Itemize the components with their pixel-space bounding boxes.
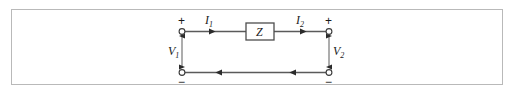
current-label-i1: I1	[205, 14, 213, 26]
voltage-label-v1-subscript: 1	[175, 51, 179, 60]
current-label-i2: I2	[296, 14, 304, 26]
current-label-i2-subscript: 2	[300, 20, 304, 29]
wire-top-left	[185, 28, 246, 34]
polarity-minus-right: −	[325, 76, 332, 88]
terminal-top-right	[326, 29, 332, 35]
polarity-minus-left: −	[178, 76, 185, 88]
return-arrow-left	[215, 69, 222, 75]
figure-root: Z I1 I2 V1 V2 + − + −	[0, 0, 513, 97]
polarity-plus-left: +	[178, 15, 185, 27]
voltage-label-v1: V1	[168, 45, 179, 57]
voltage-label-v2: V2	[333, 45, 344, 57]
current-arrow-i1	[209, 28, 216, 34]
return-arrow-right	[289, 69, 296, 75]
current-label-i1-subscript: 1	[209, 20, 213, 29]
wire-top-right	[274, 28, 329, 34]
wire-bottom	[182, 69, 329, 75]
terminal-top-left	[179, 29, 185, 35]
current-arrow-i2	[300, 28, 307, 34]
voltage-label-v2-subscript: 2	[340, 51, 344, 60]
polarity-plus-right: +	[325, 15, 332, 27]
impedance-label: Z	[256, 26, 263, 38]
circuit-schematic	[0, 0, 513, 97]
